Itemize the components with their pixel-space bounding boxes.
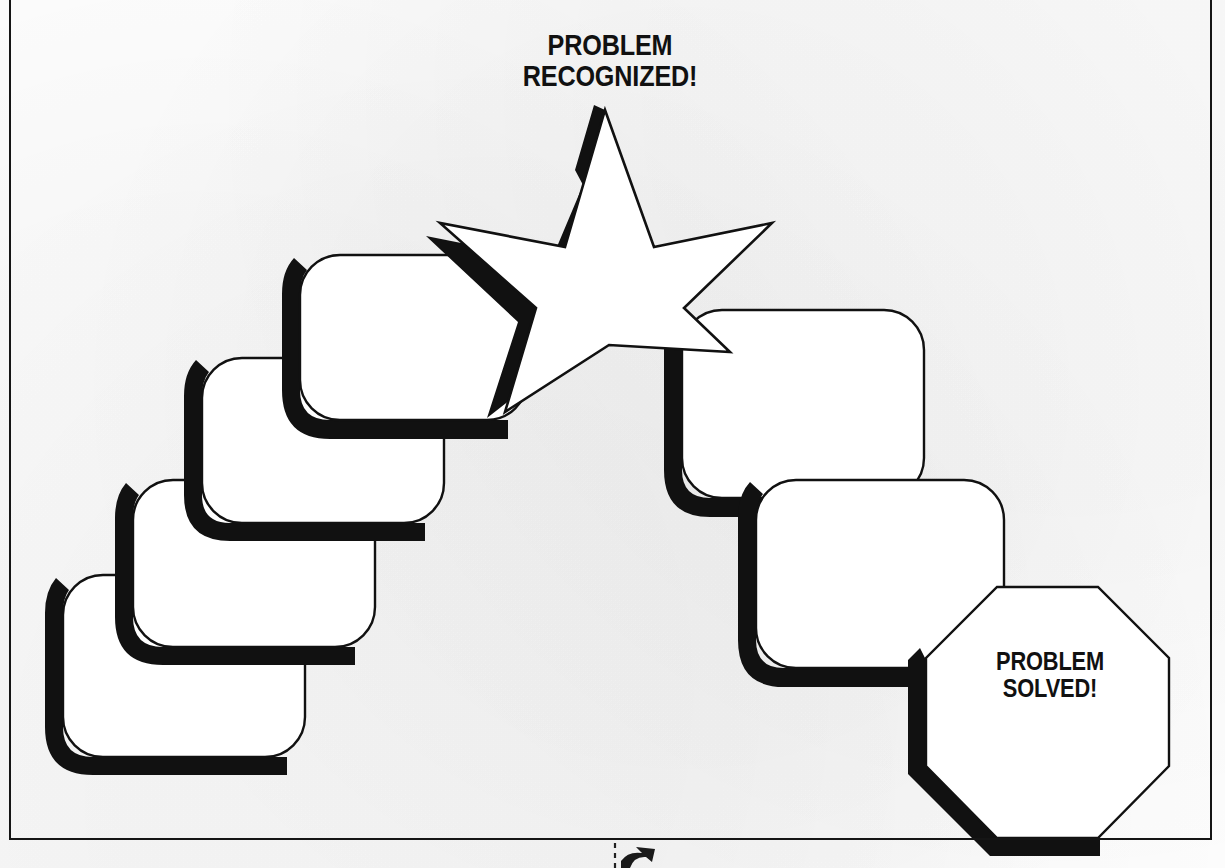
cursor-arrow-glyph [621,847,655,868]
page-border [9,0,1212,840]
octagon-title-label: PROBLEM SOLVED! [970,648,1130,701]
worksheet-page: PROBLEM RECOGNIZED! PROBLEM SOLVED! [0,0,1225,868]
star-title-label: PROBLEM RECOGNIZED! [480,30,740,91]
